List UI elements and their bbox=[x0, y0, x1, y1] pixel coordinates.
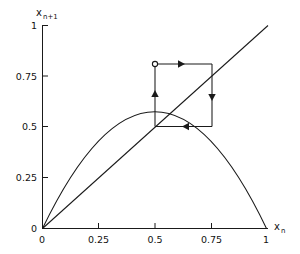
x-tick-label-1: 1 bbox=[263, 234, 269, 245]
y-tick-label-1: 1 bbox=[31, 20, 37, 31]
arrow-up-icon bbox=[151, 90, 158, 97]
x-axis-title-base: x bbox=[274, 221, 280, 232]
x-axis-ticks bbox=[99, 223, 212, 229]
y-axis-ticks bbox=[43, 26, 49, 178]
y-axis-title-base: x bbox=[36, 7, 42, 18]
x-tick-label-0: 0 bbox=[39, 234, 45, 245]
orbit-start-point-marker bbox=[152, 61, 157, 66]
arrow-down-icon bbox=[208, 94, 215, 101]
x-tick-label-025: 0.25 bbox=[88, 234, 109, 245]
x-axis-title-subscript: n bbox=[281, 227, 285, 235]
x-axis-title: x n bbox=[274, 221, 285, 235]
logistic-curve-series bbox=[43, 112, 267, 229]
y-axis-title-subscript: n+1 bbox=[43, 13, 58, 21]
cobweb-plot-figure: 1 0.75 0.5 0.25 0 0 0.25 0.5 0.75 1 x n+… bbox=[0, 0, 300, 254]
x-tick-label-075: 0.75 bbox=[201, 234, 222, 245]
y-tick-label-075: 0.75 bbox=[16, 71, 37, 82]
x-tick-label-05: 0.5 bbox=[147, 234, 162, 245]
y-tick-label-05: 0.5 bbox=[22, 121, 37, 132]
y-axis-title: x n+1 bbox=[36, 7, 58, 21]
cobweb-orbit-series bbox=[155, 64, 212, 127]
y-tick-label-0: 0 bbox=[31, 223, 37, 234]
x-tick-labels: 0 0.25 0.5 0.75 1 bbox=[39, 234, 269, 245]
y-tick-label-025: 0.25 bbox=[16, 172, 37, 183]
arrow-left-icon bbox=[182, 123, 189, 130]
y-tick-labels: 1 0.75 0.5 0.25 0 bbox=[16, 20, 37, 234]
arrow-right-icon bbox=[178, 60, 185, 67]
